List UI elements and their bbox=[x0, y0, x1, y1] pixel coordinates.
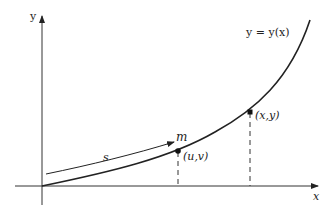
point-uv-label: (u,v) bbox=[183, 150, 208, 163]
arc-length-label: s bbox=[103, 151, 109, 164]
x-axis-label: x bbox=[313, 190, 320, 203]
point-uv: (u,v) bbox=[175, 148, 208, 186]
y-axis: y bbox=[29, 10, 42, 205]
mass-label: m bbox=[176, 130, 187, 144]
arc-length-arrow: s m bbox=[46, 130, 187, 174]
curve-diagram: y x y = y(x) s m (u,v) (x,y) bbox=[0, 0, 334, 219]
curve: y = y(x) bbox=[42, 20, 310, 186]
point-xy-dot bbox=[248, 110, 253, 115]
y-axis-label: y bbox=[29, 10, 37, 23]
point-xy-label: (x,y) bbox=[255, 109, 280, 122]
point-uv-dot bbox=[175, 148, 181, 154]
curve-label: y = y(x) bbox=[245, 26, 289, 39]
point-xy: (x,y) bbox=[248, 109, 280, 186]
x-axis: x bbox=[15, 186, 320, 203]
